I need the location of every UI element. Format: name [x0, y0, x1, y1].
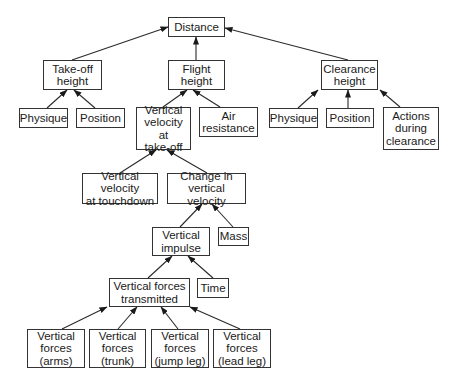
arrow-vertical_forces_trunk-to-vertical_forces_transmitted: [118, 307, 137, 329]
arrow-position_left-to-takeoff_height: [74, 90, 95, 108]
arrow-vertical_forces_transmitted-to-vertical_impulse: [148, 256, 172, 278]
node-physique-left: Physique: [19, 108, 68, 128]
node-change-vertical-velocity: Change in vertical velocity: [167, 173, 246, 204]
hierarchical-model-diagram: DistanceTake-off heightFlight heightClea…: [0, 0, 457, 390]
arrow-air_resistance-to-flight_height: [193, 90, 220, 107]
node-actions-during-clearance: Actions during clearance: [383, 107, 439, 150]
arrow-mass-to-change_vertical_velocity: [212, 204, 233, 227]
node-flight-height: Flight height: [168, 60, 225, 90]
node-air-resistance: Air resistance: [199, 107, 258, 137]
arrow-physique_right-to-clearance_height: [298, 90, 318, 108]
node-time: Time: [197, 278, 229, 298]
arrow-clearance_height-to-distance: [225, 28, 348, 60]
node-physique-right: Physique: [269, 108, 318, 128]
arrow-time-to-vertical_impulse: [188, 256, 213, 278]
node-vertical-velocity-takeoff: Vertical velocity at take-off: [136, 107, 191, 150]
node-takeoff-height: Take-off height: [43, 60, 102, 90]
node-position-left: Position: [76, 108, 125, 128]
arrow-vertical_forces_lead_leg-to-vertical_forces_transmitted: [190, 307, 240, 329]
arrow-vertical_impulse-to-change_vertical_velocity: [180, 204, 202, 227]
arrow-vertical_forces_arms-to-vertical_forces_transmitted: [62, 307, 107, 329]
arrow-takeoff_height-to-distance: [72, 27, 168, 60]
node-vertical-forces-jump-leg: Vertical forces (jump leg): [151, 329, 209, 368]
node-vertical-forces-arms: Vertical forces (arms): [27, 329, 85, 368]
arrow-vertical_forces_jump_leg-to-vertical_forces_transmitted: [161, 307, 178, 329]
node-mass: Mass: [218, 227, 249, 246]
arrow-actions_during_clearance-to-clearance_height: [380, 90, 400, 107]
arrow-physique_left-to-takeoff_height: [47, 90, 67, 108]
node-vertical-forces-lead-leg: Vertical forces (lead leg): [213, 329, 271, 368]
node-distance: Distance: [168, 17, 225, 37]
node-vertical-forces-transmitted: Vertical forces transmitted: [109, 278, 190, 307]
node-vertical-velocity-touchdown: Vertical velocity at touchdown: [82, 173, 158, 204]
node-clearance-height: Clearance height: [321, 60, 378, 90]
node-position-right: Position: [326, 108, 374, 128]
node-vertical-impulse: Vertical impulse: [152, 227, 210, 256]
node-vertical-forces-trunk: Vertical forces (trunk): [89, 329, 146, 368]
